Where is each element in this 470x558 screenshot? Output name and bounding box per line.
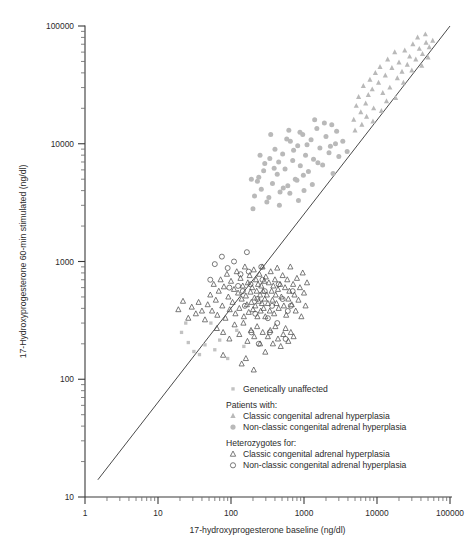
- data-point: [251, 367, 256, 372]
- data-point: [186, 315, 191, 320]
- plot-points-group: [176, 31, 436, 372]
- data-point: [379, 108, 384, 113]
- data-point: [297, 130, 302, 135]
- data-point: [239, 361, 244, 366]
- data-point: [240, 283, 245, 288]
- data-point: [304, 280, 309, 285]
- data-point: [235, 329, 238, 332]
- legend-entry-label[interactable]: Classic congenital adrenal hyperplasia: [243, 411, 390, 421]
- data-point: [288, 329, 293, 334]
- data-point: [245, 338, 250, 343]
- y-axis-title: 17-Hydroxyprogesterone 60-min stimulated…: [18, 165, 28, 359]
- y-axis-tick-label: 100: [60, 374, 74, 384]
- data-point: [282, 285, 287, 290]
- data-point: [294, 275, 299, 280]
- data-point: [380, 90, 385, 95]
- data-point: [272, 277, 277, 282]
- data-point: [254, 288, 259, 293]
- axis-titles-group: 17-hydroxyprogesterone baseline (ng/dl)1…: [18, 165, 346, 535]
- data-point: [227, 285, 232, 290]
- data-point: [275, 321, 280, 326]
- data-point: [241, 320, 246, 325]
- data-point: [311, 157, 316, 162]
- data-point: [236, 283, 241, 288]
- data-point: [259, 187, 264, 192]
- data-point: [303, 303, 308, 308]
- legend-entry-label[interactable]: Non-classic congenital adrenal hyperplas…: [243, 422, 407, 432]
- data-point: [209, 308, 214, 313]
- data-point: [221, 329, 226, 334]
- data-point: [306, 169, 311, 174]
- data-point: [329, 122, 334, 127]
- data-point: [413, 57, 418, 62]
- data-point: [423, 31, 428, 36]
- data-point: [345, 149, 350, 154]
- data-point: [367, 77, 372, 82]
- data-point: [303, 153, 308, 158]
- data-point: [237, 305, 242, 310]
- y-axis-tick-label: 100000: [46, 21, 74, 31]
- data-point: [327, 150, 332, 155]
- data-point: [314, 126, 319, 131]
- data-point: [405, 62, 410, 67]
- data-point: [278, 189, 283, 194]
- data-point: [395, 75, 400, 80]
- data-point: [393, 95, 398, 100]
- data-point: [213, 297, 218, 302]
- x-axis-tick-label: 100000: [436, 508, 464, 518]
- data-point: [251, 267, 256, 272]
- data-point: [266, 195, 271, 200]
- legend-marker-circle-open: [230, 463, 235, 468]
- data-point: [302, 188, 307, 193]
- data-point: [280, 273, 285, 278]
- legend-entry-label[interactable]: Non-classic congenital adrenal hyperplas…: [243, 460, 407, 470]
- data-point: [284, 136, 289, 141]
- data-point: [249, 177, 254, 182]
- data-point: [242, 264, 247, 269]
- legend-group-heading: Patients with:: [226, 400, 277, 410]
- data-point: [370, 86, 375, 91]
- data-point: [232, 322, 237, 327]
- data-point: [373, 70, 378, 75]
- data-point: [242, 345, 245, 348]
- data-point: [377, 64, 382, 69]
- data-point: [216, 288, 221, 293]
- data-point: [275, 172, 280, 177]
- data-point: [213, 348, 216, 351]
- data-point: [270, 297, 275, 302]
- data-point: [196, 299, 201, 304]
- data-point: [193, 311, 198, 316]
- data-point: [361, 83, 366, 88]
- data-point: [358, 109, 363, 114]
- data-point: [232, 259, 237, 264]
- data-point: [180, 331, 183, 334]
- data-point: [225, 266, 230, 271]
- data-point: [351, 117, 356, 122]
- data-point: [220, 303, 225, 308]
- data-point: [407, 54, 412, 59]
- data-point: [291, 148, 296, 153]
- data-point: [246, 269, 251, 274]
- data-point: [331, 171, 336, 176]
- data-point: [285, 183, 290, 188]
- data-point: [288, 264, 293, 269]
- legend-entry-label[interactable]: Genetically unaffected: [243, 384, 328, 394]
- data-point: [287, 191, 292, 196]
- data-point: [300, 270, 305, 275]
- data-point: [205, 302, 210, 307]
- data-point: [208, 277, 213, 282]
- x-axis-title: 17-hydroxyprogesterone baseline (ng/dl): [190, 525, 346, 535]
- data-point: [230, 299, 235, 304]
- data-point: [275, 265, 280, 270]
- series-1: [351, 31, 435, 132]
- data-point: [255, 179, 260, 184]
- data-point: [243, 293, 248, 298]
- data-point: [415, 34, 420, 39]
- data-point: [322, 121, 327, 126]
- data-point: [268, 132, 273, 137]
- data-point: [184, 321, 187, 324]
- legend-entry-label[interactable]: Classic congenital adrenal hyperplasia: [243, 449, 390, 459]
- legend-marker-square-filled: [231, 387, 234, 390]
- data-point: [212, 262, 217, 267]
- data-point: [258, 153, 263, 158]
